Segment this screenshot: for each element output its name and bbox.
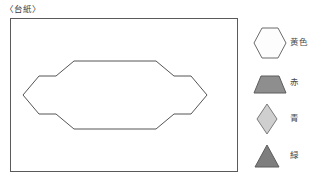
legend-label-rhombus: 青 xyxy=(290,113,299,124)
hexagon-icon xyxy=(252,26,288,60)
board-area[interactable] xyxy=(10,18,238,172)
target-outline-shape xyxy=(11,19,239,173)
legend-item-trapezoid[interactable]: 赤 xyxy=(252,66,314,100)
elongated-hexagon-outline-path xyxy=(23,61,207,129)
trapezoid-icon xyxy=(252,66,288,100)
legend-item-triangle[interactable]: 緑 xyxy=(252,139,314,173)
triangle-icon xyxy=(252,139,288,173)
pattern-block-worksheet: 〈台紙〉 黄色 赤 xyxy=(0,0,316,181)
legend-item-rhombus[interactable]: 青 xyxy=(252,102,314,136)
rhombus-icon xyxy=(252,102,288,136)
legend-label-triangle: 緑 xyxy=(290,150,299,161)
page-title: 〈台紙〉 xyxy=(5,4,41,15)
legend-label-trapezoid: 赤 xyxy=(290,77,299,88)
legend: 黄色 赤 青 緑 xyxy=(252,22,314,174)
legend-label-hexagon: 黄色 xyxy=(290,37,308,48)
legend-item-hexagon[interactable]: 黄色 xyxy=(252,26,314,60)
